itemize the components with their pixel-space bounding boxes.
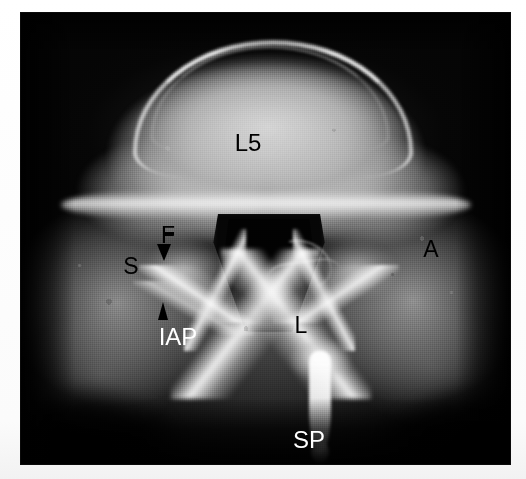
label-iap: IAP xyxy=(159,325,198,349)
label-l5: L5 xyxy=(235,131,262,155)
label-l: L xyxy=(295,314,308,337)
annotation-layer: L5FSALIAPSP xyxy=(21,13,510,464)
radiograph-plate: L5FSALIAPSP xyxy=(21,13,510,464)
figure-page: L5FSALIAPSP xyxy=(0,0,526,479)
arrow-iap xyxy=(158,302,168,320)
label-sp: SP xyxy=(293,428,325,452)
label-a: A xyxy=(423,238,438,261)
label-s: S xyxy=(123,255,138,278)
label-f: F xyxy=(161,224,175,247)
